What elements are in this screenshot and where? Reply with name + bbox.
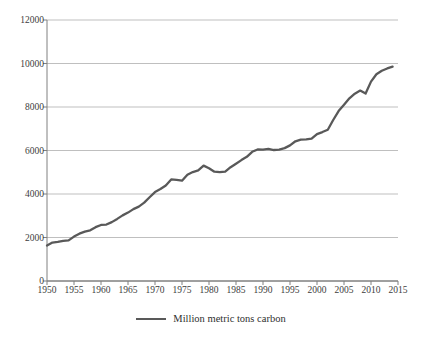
x-tick-label: 2015	[378, 285, 418, 296]
line-chart: 020004000600080001000012000 195019551960…	[0, 0, 422, 340]
legend-line-swatch	[136, 318, 166, 320]
x-axis-labels: 1950195519601965197019751980198519901995…	[0, 0, 422, 300]
legend-label: Million metric tons carbon	[173, 313, 285, 325]
chart-legend: Million metric tons carbon	[0, 304, 422, 334]
